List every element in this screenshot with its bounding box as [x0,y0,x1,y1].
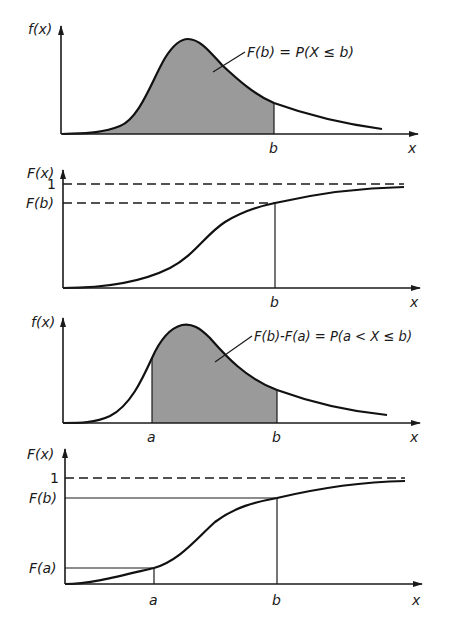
panel-pdf-cumulative: f(x) b x F(b) = P(X ≤ b) [28,21,418,156]
y-axis-label: F(x) [27,446,54,462]
annotation-label: F(b) = P(X ≤ b) [247,44,354,60]
x-axis-label: x [409,429,419,445]
y-axis-label: f(x) [28,21,52,37]
annotation-label: F(b)-F(a) = P(a < X ≤ b) [254,328,412,344]
y-axis-label: f(x) [31,314,55,330]
x-tick-b: b [272,429,281,445]
x-tick-b: b [269,140,278,156]
cdf-curve [63,187,404,288]
y-tick-one: 1 [50,470,59,486]
probability-distribution-diagram: f(x) b x F(b) = P(X ≤ b) F(x) 1 F(b) b x… [0,0,450,628]
panel-cdf-single: F(x) 1 F(b) b x [26,165,420,310]
x-tick-b: b [272,592,281,608]
y-tick-one: 1 [47,176,56,192]
x-tick-a: a [149,592,158,608]
x-tick-b: b [270,294,279,310]
x-axis-label: x [411,592,421,608]
x-tick-a: a [147,429,156,445]
panel-cdf-interval: F(x) 1 F(b) F(a) a b x [27,446,422,608]
y-tick-f-b: F(b) [29,490,57,506]
panel-pdf-interval: f(x) a b x F(b)-F(a) = P(a < X ≤ b) [31,314,420,445]
y-tick-f-a: F(a) [29,560,57,576]
x-axis-label: x [407,140,417,156]
y-tick-f-b: F(b) [26,195,54,211]
x-axis-label: x [409,294,419,310]
